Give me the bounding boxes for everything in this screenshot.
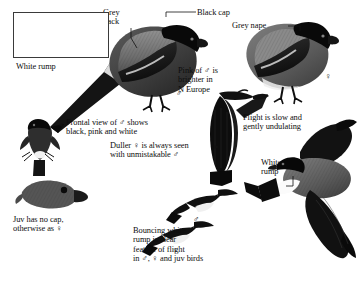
- perched-female-bullfinch: [236, 22, 339, 118]
- arrow-right-duller: ►: [213, 144, 220, 151]
- label-bouncing-rump: Bouncing white rump is clear feature of …: [133, 226, 203, 264]
- silhouette-inset-frame: [13, 12, 109, 58]
- label-pink-of-male: Pink of ♂ is brighter in N Europe: [178, 66, 218, 94]
- sex-mark-flying-male-small: ♂: [193, 214, 199, 224]
- label-flight: Flight is slow and gently undulating: [243, 113, 302, 132]
- juvenile-head: [15, 180, 88, 208]
- label-duller-female: Duller ♀ is always seen with unmistakabl…: [110, 141, 189, 160]
- flying-male-large-right: [244, 120, 357, 259]
- label-grey-nape: Grey nape: [232, 21, 266, 30]
- sex-mark-perched-female: ♀: [325, 71, 331, 81]
- label-white-rump-left: White rump: [16, 62, 56, 71]
- arrow-left-frontal: ◄: [57, 122, 64, 129]
- label-black-cap: Black cap: [197, 8, 230, 17]
- bullfinch-identification-plate: Grey back Black cap Grey nape White rump…: [0, 0, 363, 281]
- label-frontal-view: Frontal view of ♂ shows black, pink and …: [66, 118, 148, 137]
- flying-male-small: [166, 189, 238, 224]
- sex-mark-flying-female-small: ♀: [172, 245, 178, 255]
- leader-black-cap: [166, 12, 196, 17]
- label-white-rump-right: White rump: [261, 158, 281, 177]
- sex-mark-perched-male: ♂: [176, 88, 182, 98]
- label-juvenile: Juv has no cap, otherwise as ♀: [13, 215, 63, 234]
- sex-mark-flying-male-large: ♂: [335, 150, 341, 160]
